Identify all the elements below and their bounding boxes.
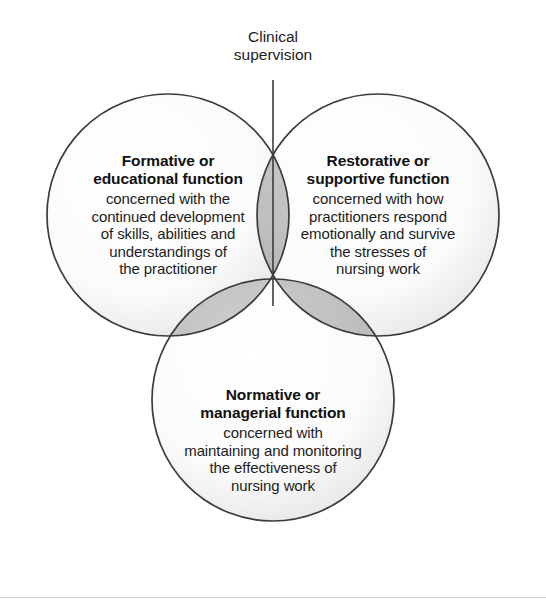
footer-divider [0, 597, 546, 598]
venn-canvas [0, 0, 546, 613]
venn-diagram: Clinical supervision Formative or educat… [0, 0, 546, 613]
